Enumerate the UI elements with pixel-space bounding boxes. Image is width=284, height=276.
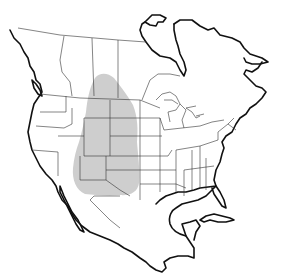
north-america-map <box>0 0 284 276</box>
gulf-coastline <box>156 186 226 236</box>
arctic-island-outline <box>145 15 166 26</box>
baja-outline <box>60 186 84 232</box>
east-coastline <box>214 62 266 186</box>
range-map: Range map of North America Species range… <box>0 0 284 276</box>
hudson-bay-coastline <box>140 22 186 76</box>
cuba-outline <box>200 214 234 222</box>
baffin-outline <box>174 20 268 64</box>
